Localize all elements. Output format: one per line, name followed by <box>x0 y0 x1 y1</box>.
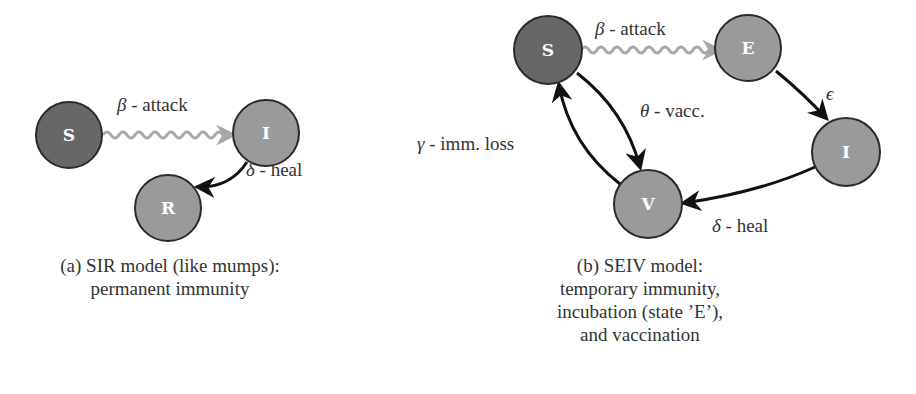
seiv-node-v: V <box>614 170 682 238</box>
sir-node-r: R <box>135 175 201 241</box>
seiv-node-i: I <box>812 118 880 186</box>
sir-caption: (a) SIR model (like mumps): permanent im… <box>40 254 300 300</box>
sir-caption-line: (a) SIR model (like mumps): <box>40 254 300 277</box>
svg-text:I: I <box>262 123 270 143</box>
seiv-attack-edge <box>581 47 719 53</box>
seiv-vacc-label: θ - vacc. <box>640 100 705 121</box>
sir-attack-edge <box>103 132 233 138</box>
svg-text:E: E <box>742 38 755 58</box>
seiv-imm-loss-edge <box>559 85 620 184</box>
svg-text:I: I <box>842 142 850 162</box>
sir-diagram: β - attack δ - heal S I R <box>36 94 302 241</box>
seiv-caption-line: incubation (state ’E’), <box>520 300 760 323</box>
seiv-vacc-edge <box>577 73 640 167</box>
seiv-heal-label: δ - heal <box>712 215 768 236</box>
seiv-caption: (b) SEIV model: temporary immunity, incu… <box>520 254 760 346</box>
seiv-attack-label: β - attack <box>594 18 666 39</box>
sir-heal-edge <box>198 162 247 187</box>
seiv-incubation-label: ϵ <box>826 83 835 104</box>
seiv-imm-loss-label: γ - imm. loss <box>417 133 514 154</box>
sir-attack-label: β - attack <box>116 94 188 115</box>
seiv-incubation-edge <box>776 71 826 118</box>
seiv-caption-line: (b) SEIV model: <box>520 254 760 277</box>
seiv-caption-line: and vaccination <box>520 323 760 346</box>
sir-caption-line: permanent immunity <box>40 277 300 300</box>
svg-text:V: V <box>640 194 655 214</box>
sir-node-s: S <box>36 102 102 168</box>
seiv-heal-edge <box>684 167 815 203</box>
seiv-node-e: E <box>715 15 781 81</box>
svg-text:S: S <box>63 125 75 145</box>
svg-text:S: S <box>542 40 554 60</box>
seiv-caption-line: temporary immunity, <box>520 277 760 300</box>
seiv-diagram: β - attack ϵ δ - heal θ - vacc. γ - imm.… <box>417 15 880 238</box>
svg-text:R: R <box>161 198 176 218</box>
sir-node-i: I <box>233 100 299 166</box>
epidemic-models-diagram: β - attack δ - heal S I R β - attack ϵ <box>0 0 916 394</box>
seiv-node-s: S <box>514 16 582 84</box>
